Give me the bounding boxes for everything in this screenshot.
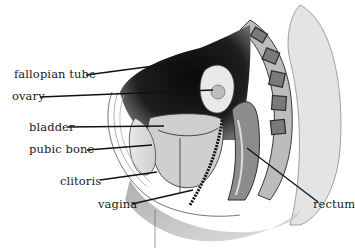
label-vagina: vagina: [98, 199, 137, 211]
bladder-shape: [148, 114, 224, 188]
rectum-tube: [228, 102, 259, 200]
ovary-shape: [211, 85, 225, 99]
label-rectum: rectum: [313, 199, 355, 211]
label-ovary: ovary: [12, 91, 45, 103]
label-bladder: bladder: [29, 122, 75, 134]
back-tissue: [288, 5, 341, 225]
label-pubic-bone: pubic bone: [29, 144, 94, 156]
label-clitoris: clitoris: [60, 176, 101, 188]
label-fallopian-tube: fallopian tube: [14, 69, 96, 81]
